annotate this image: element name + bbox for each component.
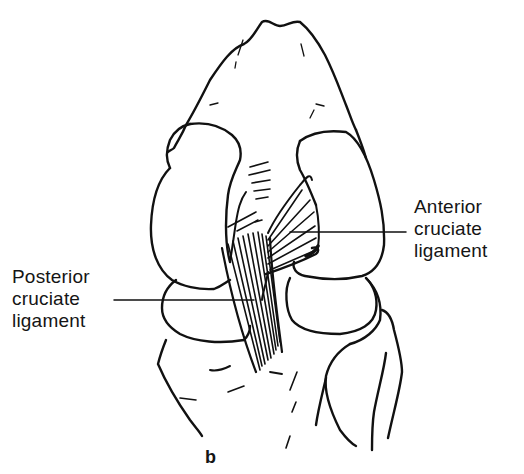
lateral-tibial-plateau bbox=[286, 278, 380, 344]
anterior-cruciate-ligament-label: Anterior cruciate ligament bbox=[414, 196, 487, 262]
label-line: Posterior bbox=[12, 266, 90, 288]
label-line: Anterior bbox=[414, 196, 487, 218]
femur bbox=[168, 21, 366, 158]
label-line: cruciate bbox=[12, 288, 90, 310]
label-line: cruciate bbox=[414, 218, 487, 240]
label-line: ligament bbox=[12, 310, 90, 332]
posterior-cruciate-ligament bbox=[222, 232, 282, 372]
medial-femoral-condyle bbox=[151, 123, 241, 289]
panel-letter: b bbox=[205, 447, 216, 468]
label-line: ligament bbox=[414, 240, 487, 262]
posterior-cruciate-ligament-label: Posterior cruciate ligament bbox=[12, 266, 90, 332]
